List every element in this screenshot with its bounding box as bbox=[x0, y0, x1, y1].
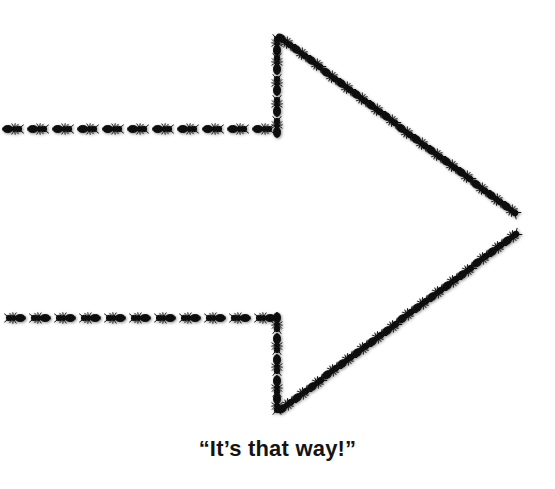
top-shaft-ant-row bbox=[3, 124, 274, 135]
ant-arrow-illustration bbox=[0, 0, 555, 489]
illustration-canvas: “It’s that way!” bbox=[0, 0, 555, 489]
caption-text: “It’s that way!” bbox=[0, 436, 555, 462]
arrowhead-upper-diagonal-ant-row bbox=[274, 31, 522, 220]
arrowhead-lower-diagonal-ant-row bbox=[275, 227, 523, 416]
bottom-shaft-ant-row bbox=[5, 313, 276, 324]
arrowhead-lower-vertical-ant-row bbox=[272, 313, 283, 415]
arrowhead-upper-vertical-ant-row bbox=[272, 35, 283, 138]
